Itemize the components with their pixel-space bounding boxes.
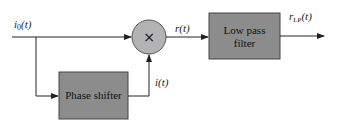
phase-output-label: i(t)	[155, 76, 169, 89]
block-diagram: Phase shifter × Low pass filter i0(t) i(…	[0, 0, 337, 127]
phase-shifter-label: Phase shifter	[65, 89, 122, 101]
lpf-label-line1: Low pass	[224, 24, 266, 36]
lpf-label-line2: filter	[234, 37, 256, 49]
multiply-icon: ×	[143, 29, 155, 45]
input-signal-label: i0(t)	[14, 18, 32, 32]
mixer-output-label: r(t)	[175, 22, 190, 35]
lpf-box	[209, 13, 280, 59]
output-signal-label: rLP(t)	[289, 10, 312, 24]
phase-output-line	[128, 55, 149, 96]
branch-line	[36, 37, 58, 96]
